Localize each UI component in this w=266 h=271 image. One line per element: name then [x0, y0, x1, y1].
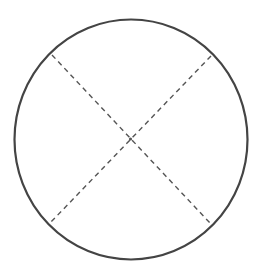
- center-point: [129, 137, 132, 140]
- background: [0, 0, 266, 271]
- circle-diagram: [0, 0, 266, 271]
